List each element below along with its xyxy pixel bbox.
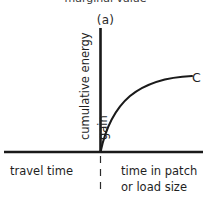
y-axis-label-line-2: gain <box>96 115 110 140</box>
x-axis-label-line-1: time in patch <box>121 164 197 178</box>
curve-label-c: C <box>192 70 201 85</box>
x-axis-label-travel-time: travel time <box>10 164 73 178</box>
x-axis-label-line-2: or load size <box>121 180 187 194</box>
y-axis-label-line-1: cumulative energy <box>78 32 92 140</box>
marginal-value-theorem-figure: marginal value (a) cumulative energy gai… <box>0 0 211 209</box>
gain-curve <box>101 76 193 152</box>
